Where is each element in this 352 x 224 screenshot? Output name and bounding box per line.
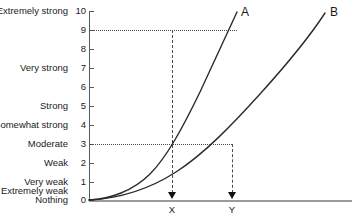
- chart-container: 10 9 8 7 6 5 4 3 2 1 0 Extremely strong …: [0, 0, 352, 224]
- curve-a-path: [89, 12, 237, 200]
- curve-label-b: B: [330, 6, 338, 18]
- curves-group: [0, 0, 352, 224]
- curve-label-a: A: [241, 6, 249, 18]
- curve-b-path: [89, 13, 325, 200]
